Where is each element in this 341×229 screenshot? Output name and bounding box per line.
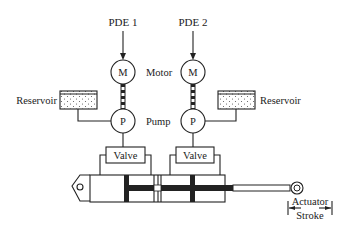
valve-right-label: Valve — [183, 150, 207, 161]
piston-1 — [124, 175, 129, 202]
reservoir-left: Reservoir — [16, 91, 111, 121]
stroke-label-line1: Actuator — [292, 196, 329, 207]
arrowhead-icon — [190, 53, 196, 60]
reservoir-right-label: Reservoir — [260, 95, 301, 106]
valve-left: Valve — [100, 147, 151, 175]
shaft-2 — [191, 84, 195, 109]
motor-1-symbol: M — [118, 67, 128, 78]
channel-1: PDE 1 M P Reservoir Valve — [16, 16, 151, 175]
clevis-mount — [72, 175, 90, 201]
motor-label: Motor — [146, 67, 173, 78]
valve-right: Valve — [170, 147, 220, 175]
reservoir-left-label: Reservoir — [16, 95, 57, 106]
pump-label: Pump — [146, 116, 171, 127]
pde2-label: PDE 2 — [178, 16, 207, 28]
arrowhead-icon — [120, 53, 126, 60]
actuator — [72, 175, 303, 202]
shaft-1 — [121, 84, 125, 109]
piston-rod — [233, 185, 290, 191]
motor-2: M — [181, 60, 205, 84]
internal-rod — [129, 185, 225, 191]
motor-1: M — [111, 60, 135, 84]
clevis-pin-icon — [77, 184, 83, 190]
pump-1-symbol: P — [120, 116, 126, 127]
pde1-label: PDE 1 — [108, 16, 137, 28]
reservoir-right: Reservoir — [205, 91, 301, 121]
channel-2: PDE 2 M P Reservoir Valve — [170, 16, 301, 175]
hydraulic-actuator-diagram: PDE 1 M P Reservoir Valve — [0, 0, 341, 229]
pump-2: P — [181, 109, 205, 133]
motor-2-symbol: M — [188, 67, 198, 78]
stroke-label-line2: Stroke — [296, 210, 324, 221]
valve-left-label: Valve — [114, 150, 138, 161]
stroke-dimension: Actuator Stroke — [288, 196, 332, 221]
pump-1: P — [111, 109, 135, 133]
pump-2-symbol: P — [190, 116, 196, 127]
